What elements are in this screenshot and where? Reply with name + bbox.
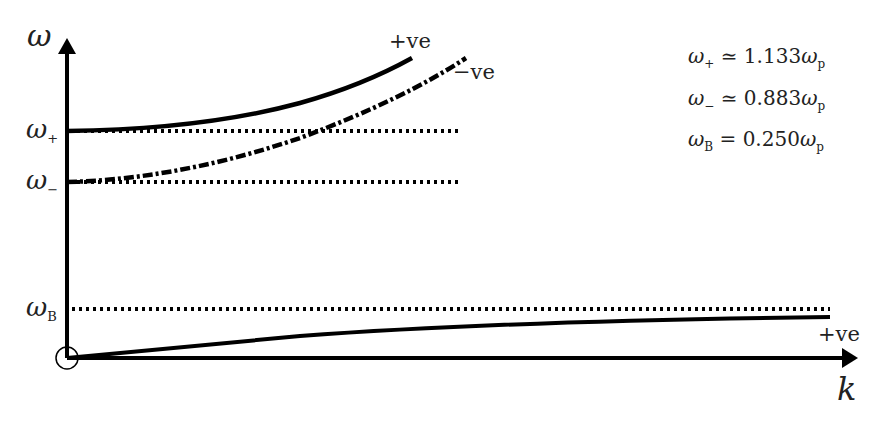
eq-unit: ω [801, 86, 817, 110]
eq-lhs: ω [688, 86, 704, 110]
x-axis-arrowhead [842, 348, 858, 368]
upper-branch-label: +ve [389, 29, 431, 53]
lower-branch-label: +ve [818, 322, 860, 346]
y-axis-arrowhead [58, 38, 76, 54]
middle-branch-curve [67, 58, 466, 182]
equation-w-B: ωB = 0.250ωp [688, 127, 824, 154]
eq-lhs: ω [688, 127, 704, 151]
tick-sub: B [47, 309, 57, 324]
tick-label-w-plus: ω+ [26, 114, 58, 146]
eq-relation: = [720, 127, 737, 151]
tick-label-w-B: ωB [26, 292, 57, 324]
eq-value: 0.250 [743, 127, 800, 151]
equation-w-plus: ω+ ≃ 1.133ωp [688, 44, 825, 71]
eq-unit-sub: p [816, 140, 824, 154]
tick-sub: + [47, 131, 58, 146]
tick-base: ω [26, 292, 47, 322]
tick-label-w-minus: ω− [26, 165, 58, 197]
eq-relation: ≃ [721, 44, 738, 68]
eq-relation: ≃ [721, 86, 738, 110]
lower-branch-curve [67, 317, 830, 358]
middle-branch-label: −ve [453, 60, 495, 84]
y-axis-label: ω [27, 18, 51, 53]
x-axis-label: k [837, 370, 856, 408]
eq-value: 0.883 [744, 86, 801, 110]
eq-lhs-sub: − [704, 99, 714, 113]
tick-base: ω [26, 114, 47, 144]
eq-lhs: ω [688, 44, 704, 68]
eq-lhs-sub: + [704, 57, 714, 71]
eq-unit-sub: p [817, 57, 825, 71]
eq-unit: ω [800, 127, 816, 151]
upper-branch-curve [67, 58, 412, 131]
tick-base: ω [26, 165, 47, 195]
tick-sub: − [47, 182, 58, 197]
eq-unit: ω [801, 44, 817, 68]
equation-w-minus: ω− ≃ 0.883ωp [688, 86, 825, 113]
eq-unit-sub: p [817, 99, 825, 113]
eq-lhs-sub: B [704, 140, 713, 154]
eq-value: 1.133 [744, 44, 801, 68]
